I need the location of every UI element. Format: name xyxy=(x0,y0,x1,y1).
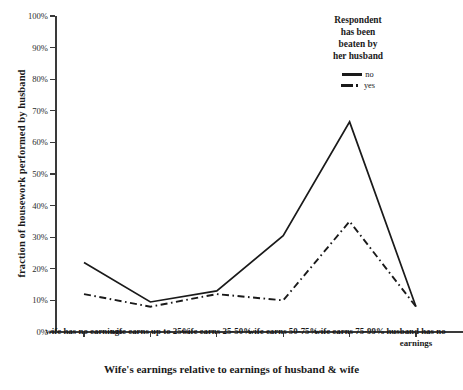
legend-title-line-3: her husband xyxy=(298,50,418,62)
legend-items: no yes xyxy=(298,69,418,91)
legend-item-no: no xyxy=(298,69,418,80)
legend-label-no: no xyxy=(365,70,373,79)
x-tick-label: husband has no earnings xyxy=(370,326,462,349)
series-line-no xyxy=(84,122,416,307)
y-tick-label: 70% xyxy=(32,106,48,116)
y-tick-label: 10% xyxy=(32,295,48,305)
legend-title-line-2: beaten by xyxy=(298,38,418,50)
chart-container: fraction of housework performed by husba… xyxy=(0,0,463,390)
y-tick-label: 60% xyxy=(32,137,48,147)
legend-swatch-solid-icon xyxy=(342,70,362,79)
y-tick-label: 90% xyxy=(32,43,48,53)
x-axis-title: Wife's earnings relative to earnings of … xyxy=(0,363,463,375)
y-tick-label: 50% xyxy=(32,169,48,179)
legend-title-line-1: has been xyxy=(298,26,418,38)
legend-title-line-0: Respondent xyxy=(298,14,418,26)
y-tick-label: 100% xyxy=(28,11,48,21)
legend: Respondent has been beaten by her husban… xyxy=(298,14,418,91)
y-tick-label: 40% xyxy=(32,201,48,211)
y-tick-label: 80% xyxy=(32,74,48,84)
y-tick-label: 20% xyxy=(32,264,48,274)
y-tick-label: 30% xyxy=(32,232,48,242)
legend-label-yes: yes xyxy=(364,81,375,90)
y-axis-title: fraction of housework performed by husba… xyxy=(16,49,27,299)
legend-title: Respondent has been beaten by her husban… xyxy=(298,14,418,62)
legend-item-yes: yes xyxy=(298,80,418,91)
legend-swatch-dashdot-icon xyxy=(341,81,361,90)
